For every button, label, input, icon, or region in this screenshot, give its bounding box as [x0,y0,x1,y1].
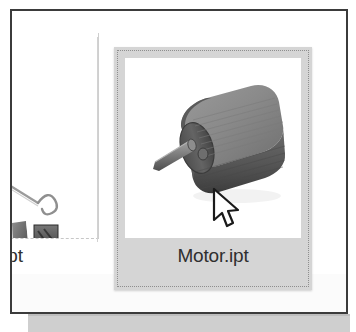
mouse-cursor-icon [211,187,245,231]
rod-wire-graphic [10,33,99,239]
file-tile-rod[interactable]: Rod.ipt [10,33,99,286]
file-label-motor: Motor.ipt [114,245,312,267]
thumbnail-rod [10,33,99,239]
file-browser-window: Rod.ipt [10,9,348,314]
file-label-rod: Rod.ipt [10,245,99,267]
clamp-thumbnail-left-icon [10,215,64,239]
file-tile-motor[interactable]: Motor.ipt [114,47,312,290]
column-separator [97,37,98,242]
page-shadow-band [28,314,350,332]
screenshot-root: Rod.ipt [0,0,356,332]
